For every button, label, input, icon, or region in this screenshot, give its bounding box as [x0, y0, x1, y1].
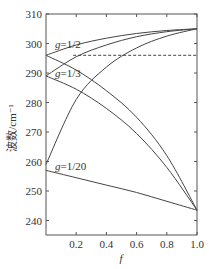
x-tick-label: 0.6	[130, 238, 144, 250]
y-axis-title: 波数/cm⁻¹	[6, 104, 18, 152]
y-tick-label: 300	[26, 38, 43, 50]
curve-label: g=1/20	[55, 160, 87, 172]
y-tick-label: 250	[26, 185, 43, 197]
y-tick-label: 280	[26, 97, 43, 109]
x-axis-title: f	[119, 252, 124, 264]
curve-g-1-3-lower	[46, 76, 197, 210]
chart: 240250260270280290300310 0.20.40.60.81.0…	[0, 0, 209, 269]
y-tick-label: 270	[26, 126, 43, 138]
x-tick-label: 1.0	[190, 238, 204, 250]
curve-label: g=1/2	[55, 38, 81, 50]
y-axis: 240250260270280290300310	[26, 8, 198, 227]
curve-labels: g=1/2g=1/3g=1/20	[55, 38, 87, 172]
curve-g-1-20-lower	[46, 170, 197, 210]
y-tick-label: 310	[26, 8, 43, 20]
x-tick-label: 0.2	[69, 238, 83, 250]
y-tick-label: 290	[26, 67, 43, 79]
x-tick-label: 0.4	[100, 238, 114, 250]
y-tick-label: 260	[26, 156, 43, 168]
curve-label: g=1/3	[55, 67, 81, 79]
curves	[46, 29, 197, 210]
x-tick-label: 0.8	[160, 238, 174, 250]
y-tick-label: 240	[26, 215, 43, 227]
x-axis: 0.20.40.60.81.0	[69, 14, 204, 250]
